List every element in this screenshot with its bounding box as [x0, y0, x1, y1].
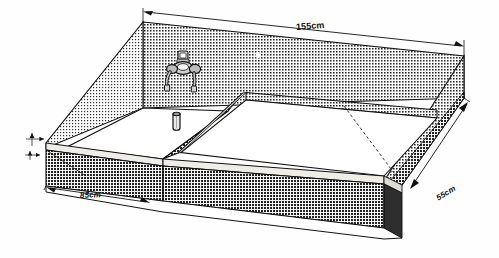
dimension-label-width: 155cm: [296, 20, 325, 32]
dimension-label-depth-left: 85cm: [80, 190, 101, 200]
wall-highlight-speck: [256, 52, 261, 58]
drain-strainer: [173, 112, 180, 130]
technical-illustration: [0, 0, 499, 258]
edge-thickness-marks: [25, 133, 44, 160]
drawing-canvas: 155cm 85cm 55cm: [0, 0, 499, 258]
